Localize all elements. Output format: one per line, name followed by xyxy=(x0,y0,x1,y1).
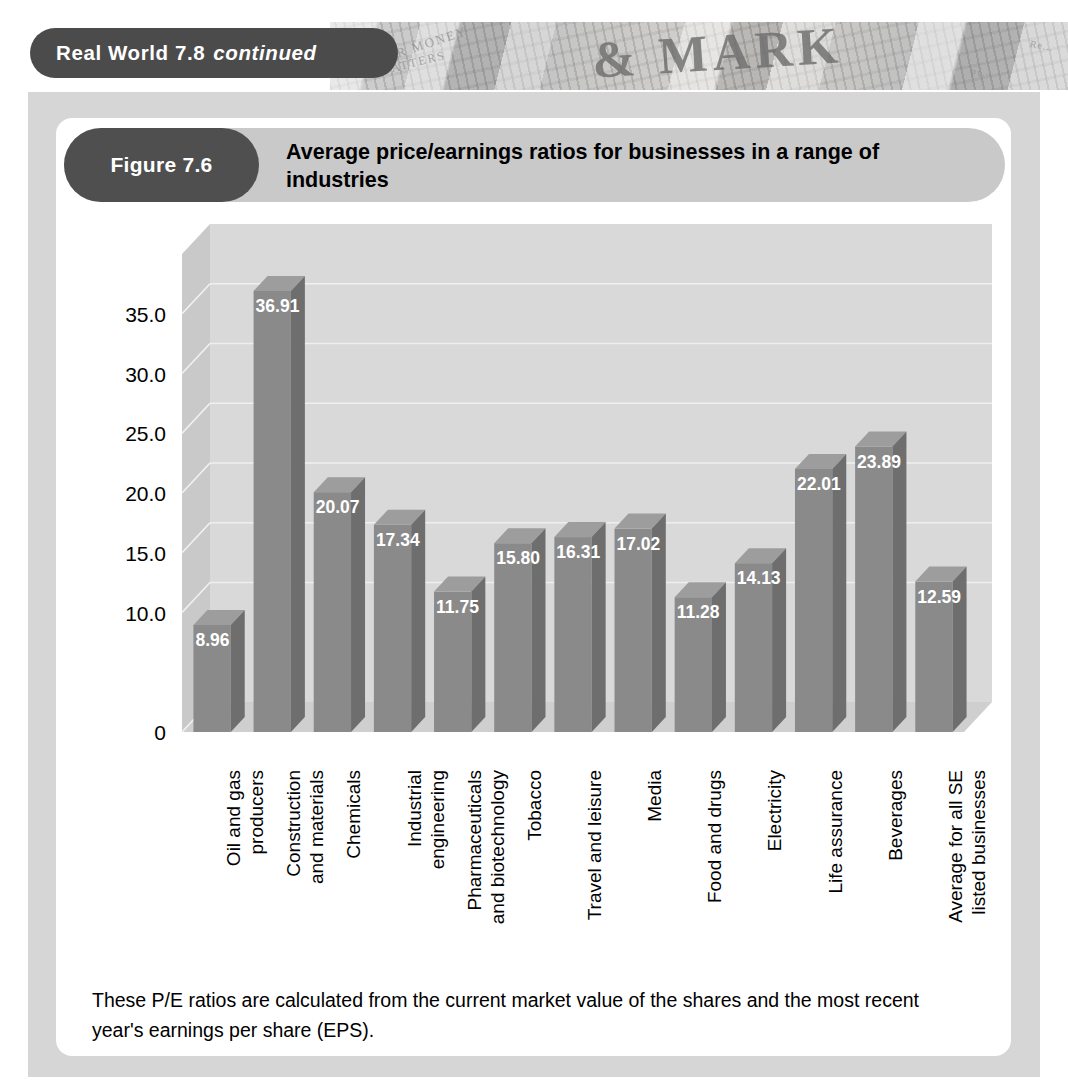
bar-group xyxy=(855,432,906,732)
bar-value-label: 11.75 xyxy=(436,597,479,617)
bar-side-face xyxy=(892,432,906,732)
bar-side-face xyxy=(231,610,245,732)
figure-number-label: Figure 7.6 xyxy=(110,153,212,177)
x-axis-category-label: Construction and materials xyxy=(282,770,328,970)
x-axis-category-label: Pharmaceuticals and biotechnology xyxy=(463,770,509,970)
bar-chart: 010.015.020.025.030.035.08.9636.9120.071… xyxy=(64,212,1005,772)
y-axis-tick-label: 35.0 xyxy=(125,303,166,326)
bar-value-label: 17.34 xyxy=(376,530,420,550)
figure-title-text: Average price/earnings ratios for busine… xyxy=(286,138,986,194)
real-world-banner-title: Real World 7.8 xyxy=(56,41,205,65)
x-axis-category-label: Tobacco xyxy=(523,770,546,970)
real-world-banner-continued: continued xyxy=(213,41,316,65)
bar-front-face xyxy=(554,537,591,732)
page-root: & MARK UR MONEY MATTERS Pr... Re... Real… xyxy=(0,0,1068,1092)
bar-value-label: 8.96 xyxy=(195,630,229,650)
x-axis-category-label: Food and drugs xyxy=(703,770,726,970)
y-axis-tick-label: 20.0 xyxy=(125,482,166,505)
bar-front-face xyxy=(314,492,351,732)
chart-canvas: 010.015.020.025.030.035.08.9636.9120.071… xyxy=(64,212,1005,772)
x-axis-category-label: Beverages xyxy=(884,770,907,970)
x-axis-category-label: Media xyxy=(643,770,666,970)
bar-group xyxy=(254,276,305,732)
bar-value-label: 16.31 xyxy=(556,542,600,562)
x-axis-category-label: Industrial engineering xyxy=(403,770,449,970)
y-axis-tick-label: 0 xyxy=(154,721,166,744)
bar-value-label: 11.28 xyxy=(677,602,720,622)
bar-side-face xyxy=(832,454,846,732)
bar-value-label: 15.80 xyxy=(496,548,540,568)
y-axis-tick-label: 10.0 xyxy=(125,602,166,625)
bar-front-face xyxy=(615,529,652,732)
x-axis-category-label: Travel and leisure xyxy=(583,770,606,970)
x-axis-category-label: Life assurance xyxy=(824,770,847,970)
bar-value-label: 20.07 xyxy=(316,497,360,517)
bar-front-face xyxy=(374,525,411,732)
bar-value-label: 36.91 xyxy=(256,296,300,316)
newspaper-photo-banner: & MARK UR MONEY MATTERS Pr... Re... xyxy=(330,22,1068,90)
bar-value-label: 14.13 xyxy=(737,568,781,588)
figure-number-pill: Figure 7.6 xyxy=(64,128,259,202)
bar-front-face xyxy=(795,469,832,732)
bar-front-face xyxy=(254,291,291,732)
y-axis-tick-label: 15.0 xyxy=(125,542,166,565)
real-world-banner: Real World 7.8 continued xyxy=(30,28,398,78)
bar-value-label: 23.89 xyxy=(857,452,901,472)
y-axis-tick-label: 30.0 xyxy=(125,363,166,386)
y-axis-tick-label: 25.0 xyxy=(125,422,166,445)
figure-caption: These P/E ratios are calculated from the… xyxy=(92,985,972,1045)
bar-front-face xyxy=(735,563,772,732)
bar-value-label: 22.01 xyxy=(797,474,841,494)
figure-title-bar: Figure 7.6 Average price/earnings ratios… xyxy=(64,128,1005,202)
x-axis-category-label: Oil and gas producers xyxy=(222,770,268,970)
bar-front-face xyxy=(494,543,531,732)
bar-side-face xyxy=(291,276,305,732)
bar-group xyxy=(795,454,846,732)
bar-value-label: 12.59 xyxy=(917,587,961,607)
bar-value-label: 17.02 xyxy=(617,534,661,554)
bar-group xyxy=(193,610,244,732)
x-axis-category-labels: Oil and gas producersConstruction and ma… xyxy=(64,770,1005,975)
x-axis-category-label: Electricity xyxy=(763,770,786,970)
x-axis-category-label: Average for all SE listed businesses xyxy=(944,770,990,970)
x-axis-category-label: Chemicals xyxy=(342,770,365,970)
bar-front-face xyxy=(855,447,892,732)
